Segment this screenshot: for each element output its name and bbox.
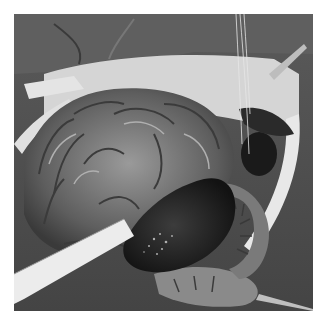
abdominal-cavity [241, 132, 277, 176]
surgical-photo [14, 14, 313, 311]
surgical-scene [14, 14, 313, 311]
